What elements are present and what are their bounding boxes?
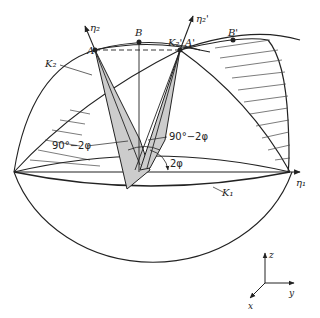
label-B-prime: B' xyxy=(227,27,238,38)
inner-arc xyxy=(180,50,290,172)
label-A: A xyxy=(86,45,94,56)
label-K2: K₂ xyxy=(44,58,56,69)
coordinate-axes: z y x xyxy=(248,250,295,311)
angle-label-2phi: 2φ xyxy=(170,158,183,169)
point-B-prime xyxy=(231,38,236,43)
rotated-lobe xyxy=(180,39,289,172)
label-z: z xyxy=(268,250,274,260)
sphere-diagram: A B A' B' η₂ η₂' η₁ K₂ K₂' K₁ 90°−2φ 90°… xyxy=(0,0,320,318)
label-x: x xyxy=(248,301,253,311)
point-B xyxy=(137,40,142,45)
label-y: y xyxy=(288,288,295,298)
label-eta2: η₂ xyxy=(90,22,100,33)
angle-label-right: 90°−2φ xyxy=(169,131,208,142)
hatching-left xyxy=(30,110,100,166)
label-A-prime: A' xyxy=(184,37,195,48)
label-eta2-prime: η₂' xyxy=(196,13,209,24)
point-A-prime xyxy=(178,48,183,53)
label-eta1: η₁ xyxy=(296,177,306,188)
angle-label-left: 90°−2φ xyxy=(52,140,91,151)
label-K1: K₁ xyxy=(221,187,233,198)
label-K2-prime: K₂' xyxy=(167,37,182,48)
hatching-right xyxy=(215,40,290,160)
label-B: B xyxy=(134,27,142,38)
